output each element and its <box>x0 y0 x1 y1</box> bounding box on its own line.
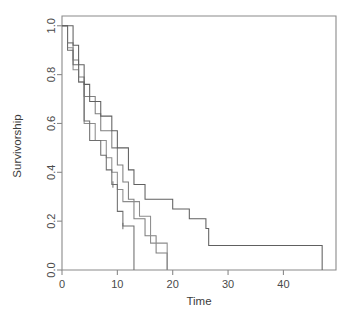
y-tick-label: 0.4 <box>45 165 57 180</box>
plot-frame <box>62 16 336 270</box>
y-tick-label: 1.0 <box>45 18 57 33</box>
x-tick-label: 30 <box>222 278 234 290</box>
survival-chart: 0102030400.00.20.40.60.81.0 Time Survivo… <box>0 0 352 315</box>
x-tick-label: 20 <box>167 278 179 290</box>
curve-group <box>62 26 322 270</box>
y-tick-label: 0.2 <box>45 214 57 229</box>
plot-area: 0102030400.00.20.40.60.81.0 Time Survivo… <box>0 0 352 315</box>
x-axis-title: Time <box>186 295 211 307</box>
x-tick-label: 0 <box>59 278 65 290</box>
x-tick-label: 10 <box>111 278 123 290</box>
x-tick-label: 40 <box>277 278 289 290</box>
y-tick-label: 0.0 <box>45 262 57 277</box>
y-tick-label: 0.6 <box>45 116 57 131</box>
axis-group <box>57 16 336 275</box>
y-tick-label: 0.8 <box>45 67 57 82</box>
y-axis-title: Survivorship <box>11 114 23 177</box>
survival-curve <box>62 26 167 270</box>
